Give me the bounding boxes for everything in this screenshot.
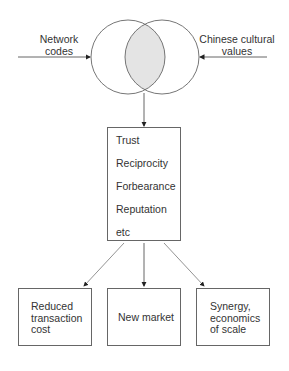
attribute-trust: Trust (116, 134, 140, 146)
outcome-box-reduced-cost: Reduced transaction cost (18, 288, 92, 346)
network-codes-line1: Network (34, 33, 84, 45)
attribute-reciprocity: Reciprocity (116, 157, 168, 169)
cultural-values-line1: Chinese cultural (196, 33, 278, 45)
attribute-etc: etc (116, 226, 130, 238)
network-attributes-box: Trust Reciprocity Forbearance Reputation… (107, 127, 181, 241)
outcome-box-new-market: New market (107, 288, 181, 346)
arrow-to-outcome-1 (84, 243, 124, 286)
outcome-2-line1: New market (118, 312, 174, 324)
outcome-box-synergy: Synergy, economics of scale (196, 288, 270, 346)
network-codes-line2: codes (34, 45, 84, 57)
outcome-2-text: New market (118, 312, 174, 324)
attribute-reputation: Reputation (116, 203, 167, 215)
arrow-to-outcome-3 (164, 243, 204, 286)
outcome-1-line3: cost (31, 324, 82, 336)
outcome-3-line3: of scale (210, 324, 260, 336)
attribute-forbearance: Forbearance (116, 180, 176, 192)
cultural-values-line2: values (196, 45, 278, 57)
outcome-1-line1: Reduced (31, 301, 82, 313)
chinese-cultural-values-label: Chinese cultural values (196, 33, 278, 57)
outcome-3-line1: Synergy, (210, 301, 260, 313)
outcome-1-text: Reduced transaction cost (31, 301, 82, 336)
outcome-3-text: Synergy, economics of scale (210, 301, 260, 336)
network-codes-label: Network codes (34, 33, 84, 57)
